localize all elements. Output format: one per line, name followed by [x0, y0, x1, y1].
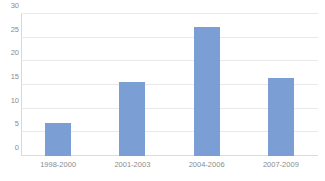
y-axis-tick-label: 20 — [1, 49, 19, 57]
x-axis-tick-label: 2004-2006 — [170, 160, 244, 174]
plot-area — [21, 14, 318, 156]
bar[interactable] — [45, 123, 71, 156]
y-axis-tick-label: 25 — [1, 26, 19, 34]
chart-title — [0, 0, 325, 1]
y-axis-tick-label: 0 — [1, 144, 19, 152]
bar[interactable] — [119, 82, 145, 156]
y-axis-tick-labels: 051015202530 — [0, 14, 19, 156]
x-axis-tick-label: 2001-2003 — [95, 160, 169, 174]
bar[interactable] — [268, 78, 294, 156]
y-axis-tick-label: 30 — [1, 2, 19, 10]
bar-slot — [170, 14, 244, 156]
bar-chart: 051015202530 1998-20002001-20032004-2006… — [0, 0, 325, 181]
y-axis-tick-label: 5 — [1, 120, 19, 128]
bar[interactable] — [194, 27, 220, 156]
bar-slot — [21, 14, 95, 156]
bar-slot — [244, 14, 318, 156]
y-axis-tick-label: 15 — [1, 73, 19, 81]
bar-slot — [95, 14, 169, 156]
x-axis-tick-label: 2007-2009 — [244, 160, 318, 174]
bar-series — [21, 14, 318, 156]
x-axis-tick-label: 1998-2000 — [21, 160, 95, 174]
x-axis-tick-labels: 1998-20002001-20032004-20062007-2009 — [21, 160, 318, 174]
y-axis-tick-label: 10 — [1, 97, 19, 105]
